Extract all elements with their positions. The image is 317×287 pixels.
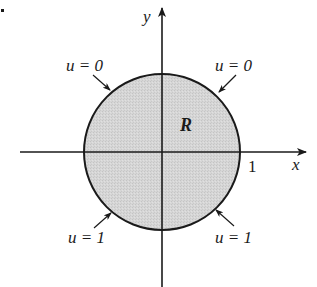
diagram-canvas: y x 1 R u = 0 u = 0 u = 1 u = 1 [0, 0, 317, 287]
x-tick-label-1: 1 [248, 157, 257, 176]
boundary-label-top-left: u = 0 [66, 56, 103, 75]
boundary-label-top-right: u = 0 [215, 56, 252, 75]
x-axis-label: x [291, 155, 300, 174]
pointer-arrow-bottom-right [216, 210, 234, 226]
y-axis-label: y [141, 7, 151, 26]
boundary-label-bottom-right: u = 1 [215, 228, 252, 247]
corner-mark [1, 9, 4, 12]
pointer-arrow-bottom-left [94, 213, 111, 228]
boundary-label-bottom-left: u = 1 [68, 228, 105, 247]
pointer-arrow-top-right [219, 75, 236, 92]
pointer-arrow-top-left [93, 75, 110, 90]
region-label: R [179, 115, 192, 135]
